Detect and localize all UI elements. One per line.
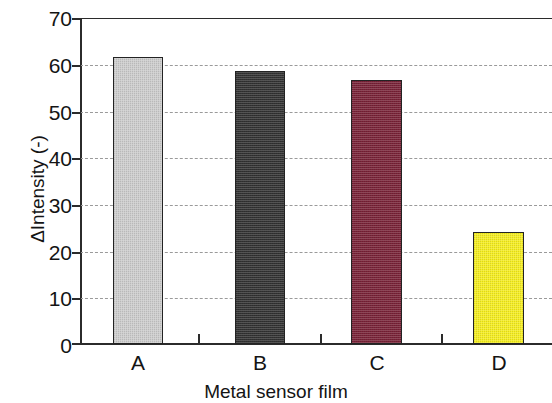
bar-D-texture (474, 233, 523, 343)
bar-chart-figure: ΔIntensity (-) 70 60 50 40 30 20 10 0 (0, 0, 552, 403)
y-tick-label-10: 10 (32, 288, 72, 309)
x-axis-title: Metal sensor film (0, 381, 552, 403)
y-tick-mark-50 (72, 112, 81, 114)
bar-D (473, 232, 524, 344)
y-tick-mark-30 (72, 205, 81, 207)
y-tick-label-40: 40 (32, 148, 72, 169)
x-tick-label-B: B (220, 352, 300, 373)
x-tick-mark-1 (198, 334, 200, 345)
y-tick-label-20: 20 (32, 242, 72, 263)
plot-frame-top (80, 18, 552, 19)
y-tick-mark-60 (72, 65, 81, 67)
x-tick-mark-3 (441, 334, 443, 345)
y-axis-line (80, 18, 82, 345)
y-tick-label-60: 60 (32, 55, 72, 76)
bar-A (113, 57, 163, 344)
y-tick-mark-70 (72, 18, 81, 20)
bar-B-texture (236, 72, 284, 343)
x-tick-label-C: C (337, 352, 417, 373)
x-tick-label-D: D (459, 352, 539, 373)
bar-C-texture (352, 81, 401, 343)
y-tick-mark-10 (72, 298, 81, 300)
bar-C (351, 80, 402, 344)
y-tick-mark-0 (72, 343, 81, 345)
x-tick-label-A: A (98, 352, 178, 373)
y-tick-label-30: 30 (32, 195, 72, 216)
bar-B (235, 71, 285, 344)
y-tick-mark-20 (72, 252, 81, 254)
plot-area (80, 18, 552, 345)
y-tick-label-0: 0 (32, 335, 72, 356)
x-tick-mark-2 (320, 334, 322, 345)
y-axis-tick-labels: 70 60 50 40 30 20 10 0 (28, 0, 72, 403)
y-tick-mark-40 (72, 158, 81, 160)
y-tick-label-50: 50 (32, 102, 72, 123)
bar-A-texture (114, 58, 162, 343)
y-tick-label-70: 70 (32, 8, 72, 29)
